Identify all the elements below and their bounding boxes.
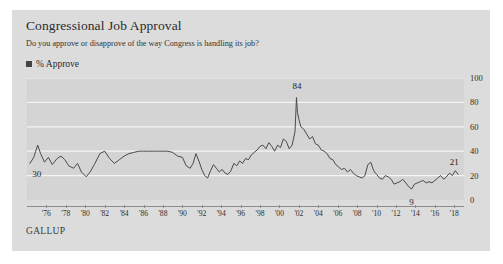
x-axis-tick-98: '98 <box>256 209 265 218</box>
source-attribution: GALLUP <box>26 226 65 236</box>
y-axis-tick-80: 80 <box>470 98 479 107</box>
page-title: Congressional Job Approval <box>26 18 182 34</box>
plot-area <box>27 78 464 200</box>
legend-square-marker-icon <box>26 61 32 67</box>
x-axis-tickmark <box>377 205 378 208</box>
annotation-start-value: 30 <box>32 169 41 179</box>
annotation-end-value: 21 <box>450 157 459 167</box>
x-axis-tick-94: '94 <box>217 209 226 218</box>
chart-card: Congressional Job Approval Do you approv… <box>12 10 490 251</box>
x-axis-tickmark <box>105 205 106 208</box>
x-axis-tickmark <box>357 205 358 208</box>
x-axis-tickmark <box>241 205 242 208</box>
x-axis-tickmark <box>396 205 397 208</box>
x-axis-tickmark <box>435 205 436 208</box>
annotation-low-value: 9 <box>409 197 414 207</box>
x-axis-tickmark <box>85 205 86 208</box>
x-axis-tick-14: '14 <box>411 209 420 218</box>
x-axis-tick-96: '96 <box>236 209 245 218</box>
gridlines <box>27 78 464 200</box>
x-axis-tickmark <box>318 205 319 208</box>
x-axis-tick-76: '76 <box>42 209 51 218</box>
x-axis-tick-08: '08 <box>353 209 362 218</box>
x-axis-tick-90: '90 <box>178 209 187 218</box>
x-axis-tickmark <box>163 205 164 208</box>
x-axis-tickmark <box>182 205 183 208</box>
x-axis-tickmark <box>221 205 222 208</box>
x-axis-tick-16: '16 <box>430 209 439 218</box>
x-axis-tick-88: '88 <box>158 209 167 218</box>
x-axis-tickmark <box>338 205 339 208</box>
y-axis-tick-60: 60 <box>470 123 479 132</box>
annotation-peak-value: 84 <box>292 81 301 91</box>
x-axis-tickmark <box>279 205 280 208</box>
x-axis-tickmark <box>66 205 67 208</box>
x-axis-tickmark <box>124 205 125 208</box>
y-axis-tick-0: 0 <box>470 196 474 205</box>
x-axis-tickmark <box>415 205 416 208</box>
y-axis-tick-40: 40 <box>470 147 479 156</box>
x-axis-tick-18: '18 <box>450 209 459 218</box>
chart-subtitle: Do you approve or disapprove of the way … <box>26 39 259 48</box>
chart-screenshot: Congressional Job Approval Do you approv… <box>0 0 503 264</box>
x-axis-tick-84: '84 <box>120 209 129 218</box>
x-axis-tick-10: '10 <box>372 209 381 218</box>
x-axis-tickmark <box>144 205 145 208</box>
x-axis-tick-06: '06 <box>333 209 342 218</box>
x-axis-tick-04: '04 <box>314 209 323 218</box>
x-axis-tickmark <box>454 205 455 208</box>
x-axis-tickmark <box>260 205 261 208</box>
x-axis-tick-02: '02 <box>294 209 303 218</box>
x-axis-tickmark <box>299 205 300 208</box>
x-axis-tick-12: '12 <box>392 209 401 218</box>
y-axis-tick-100: 100 <box>470 74 483 83</box>
x-axis-tick-92: '92 <box>197 209 206 218</box>
x-axis-tickmark <box>202 205 203 208</box>
x-axis-tick-82: '82 <box>100 209 109 218</box>
x-axis-tick-80: '80 <box>81 209 90 218</box>
chart-legend: % Approve <box>26 59 79 69</box>
x-axis-line <box>27 206 464 207</box>
y-axis-tick-20: 20 <box>470 172 479 181</box>
x-axis-labels: '76'78'80'82'84'86'88'90'92'94'96'98'00'… <box>27 209 464 223</box>
y-axis-labels: 020406080100 <box>470 72 498 206</box>
x-axis-tick-78: '78 <box>61 209 70 218</box>
x-axis-tickmark <box>46 205 47 208</box>
legend-label-approve: % Approve <box>36 59 79 69</box>
x-axis-tick-00: '00 <box>275 209 284 218</box>
chart-canvas <box>27 78 464 200</box>
x-axis-tick-86: '86 <box>139 209 148 218</box>
